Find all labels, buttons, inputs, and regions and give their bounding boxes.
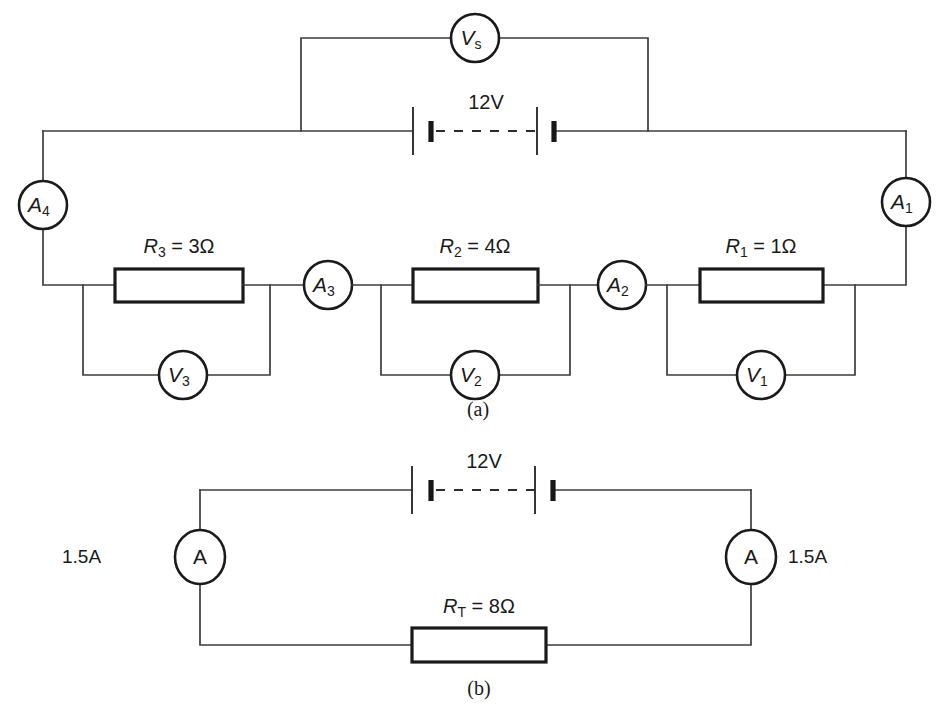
- voltmeter-v2-subscript: 2: [474, 373, 482, 389]
- panel-b-left-branch: A 1.5A: [62, 490, 412, 645]
- ammeter-a2-symbol: A: [605, 273, 621, 296]
- panel-b: 12V A 1.5A A 1.5A RT = 8Ω (b): [62, 450, 827, 699]
- ammeter-right-reading: 1.5A: [788, 546, 827, 567]
- circuit-diagram-figure: Vs 12V A4: [0, 0, 941, 717]
- battery-voltage-label: 12V: [468, 91, 504, 113]
- ammeter-left-symbol: A: [193, 545, 207, 568]
- resistor-r3-value: 3Ω: [188, 235, 214, 257]
- panel-b-caption: (b): [467, 677, 490, 700]
- resistor-r2-value: 4Ω: [484, 235, 510, 257]
- resistor-r1-equals: =: [748, 235, 771, 257]
- resistor-rt-equals: =: [466, 595, 489, 617]
- resistor-rt-symbol: R: [443, 595, 457, 617]
- ammeter-right-symbol: A: [744, 545, 758, 568]
- resistor-r2-subscript: 2: [454, 244, 462, 260]
- battery-panel-b: 12V: [412, 450, 553, 514]
- resistor-r1-label: R1 = 1Ω: [725, 235, 796, 259]
- resistor-r1-group: R1 = 1Ω: [700, 235, 823, 302]
- ammeter-a2-subscript: 2: [621, 283, 629, 299]
- resistor-rt: [412, 628, 546, 662]
- source-voltmeter-subscript: s: [475, 36, 482, 52]
- resistor-r1-symbol: R: [725, 235, 739, 257]
- ammeter-a3-symbol: A: [311, 273, 327, 296]
- ammeter-a1-subscript: 1: [905, 200, 913, 216]
- resistor-r1: [700, 269, 823, 302]
- ammeter-a1-branch: A1: [823, 131, 930, 285]
- ammeter-a4-symbol: A: [26, 193, 42, 216]
- vs-right-wire: [499, 38, 648, 131]
- resistor-r2: [413, 269, 538, 302]
- ammeter-left-reading: 1.5A: [62, 546, 101, 567]
- panel-b-right-branch: A 1.5A: [546, 490, 827, 645]
- a4-lower-wire: [43, 229, 115, 285]
- resistor-r3-subscript: 3: [158, 244, 166, 260]
- battery-panel-a: 12V: [413, 91, 554, 155]
- panel-b-right-lower-wire: [546, 582, 751, 645]
- resistor-r2-label: R2 = 4Ω: [439, 235, 510, 259]
- panel-a-caption: (a): [467, 398, 489, 421]
- voltmeter-v3-subscript: 3: [182, 373, 190, 389]
- circuit-canvas: Vs 12V A4: [0, 0, 941, 717]
- panel-a: Vs 12V A4: [19, 14, 930, 421]
- resistor-r1-subscript: 1: [740, 244, 748, 260]
- resistor-r3-group: R3 = 3Ω: [115, 235, 304, 302]
- voltmeter-v1-subscript: 1: [760, 373, 768, 389]
- resistor-rt-group: RT = 8Ω: [412, 595, 546, 662]
- resistor-r3-symbol: R: [143, 235, 157, 257]
- ammeter-a1-symbol: A: [889, 190, 905, 213]
- ammeter-a2-group: A2: [598, 261, 700, 309]
- vs-left-wire: [301, 38, 451, 131]
- a1-lower-wire: [823, 226, 906, 285]
- resistor-r2-equals: =: [462, 235, 485, 257]
- resistor-rt-label: RT = 8Ω: [443, 595, 515, 619]
- resistor-r2-symbol: R: [439, 235, 453, 257]
- ammeter-a3-subscript: 3: [327, 283, 335, 299]
- resistor-r1-value: 1Ω: [770, 235, 796, 257]
- ammeter-a4-subscript: 4: [42, 203, 50, 219]
- ammeter-a3-group: A3: [304, 261, 413, 309]
- resistor-rt-value: 8Ω: [489, 595, 515, 617]
- resistor-r3: [115, 269, 243, 302]
- ammeter-a4-branch: A4: [19, 131, 115, 285]
- source-voltmeter-branch: Vs: [301, 14, 648, 131]
- resistor-r3-label: R3 = 3Ω: [143, 235, 214, 259]
- resistor-r3-equals: =: [166, 235, 189, 257]
- battery-b-voltage-label: 12V: [466, 450, 502, 472]
- panel-b-left-lower-wire: [200, 582, 412, 645]
